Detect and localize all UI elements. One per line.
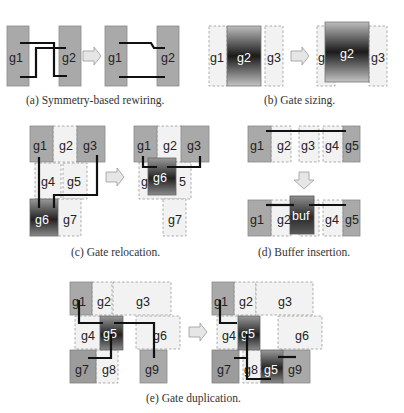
- gate-label: g1: [250, 139, 264, 153]
- gate-label: g7: [217, 363, 231, 377]
- panel-e: g1 g2 g3 g4 g5 g6 g7 g8 g9 g1 g2 g3 g4 g…: [70, 282, 322, 405]
- gate-label: g4: [325, 139, 339, 153]
- gate-label: g9: [145, 363, 159, 377]
- gate-label: g1: [108, 51, 122, 65]
- gate-label: g2: [97, 295, 111, 309]
- gate-label: g1: [250, 213, 264, 227]
- gate-label: g3: [371, 51, 385, 65]
- panel-c: g1 g2 g3 g4 g5 g6 g7 g1 g2 g3 g g6 5 g7 …: [30, 126, 209, 259]
- gate-label: g3: [267, 51, 281, 65]
- gate-label: g3: [136, 295, 150, 309]
- gate-label: g7: [168, 213, 182, 227]
- gate-label: g3: [83, 139, 97, 153]
- gate-label: g6: [295, 329, 309, 343]
- gate-label: g7: [63, 213, 77, 227]
- gate-label: g6: [35, 213, 49, 227]
- arrow-right-icon: [106, 168, 124, 186]
- gate-label: g2: [340, 47, 354, 61]
- gate-label: g6: [153, 171, 167, 185]
- caption: (a) Symmetry-based rewiring.: [26, 94, 164, 107]
- gate-label: g1: [33, 139, 47, 153]
- caption: (c) Gate relocation.: [71, 246, 160, 259]
- gate-label: g2: [277, 139, 291, 153]
- gate-label: g2: [62, 51, 76, 65]
- gate-label: g7: [75, 363, 89, 377]
- panel-d: g1 g2 g3 g4 g5 g1 g2 buf g4 g5 (d) Buffe…: [248, 126, 360, 259]
- panel-a: g1 g2 g1 g2 (a) Symmetry-based rewiring.: [7, 26, 179, 107]
- arrow-right-icon: [83, 47, 101, 65]
- gate-label: g5: [67, 175, 81, 189]
- gate-label: g1: [210, 51, 224, 65]
- gate-label: g3: [301, 139, 315, 153]
- gate-label: g2: [239, 295, 253, 309]
- gate-label: g2: [237, 51, 251, 65]
- gate-label: g4: [222, 329, 236, 343]
- arrow-right-icon: [189, 323, 207, 341]
- gate-label: g5: [345, 139, 359, 153]
- arrow-right-icon: [291, 47, 309, 65]
- gate-label: g1: [9, 51, 23, 65]
- caption: (b) Gate sizing.: [264, 94, 335, 107]
- gate-label: g3: [187, 139, 201, 153]
- gate-label: g: [318, 51, 325, 65]
- gate-label: g2: [161, 51, 175, 65]
- panel-b: g1 g2 g3 g g2 g3 (b) Gate sizing.: [209, 22, 387, 107]
- gate-label: g2: [163, 139, 177, 153]
- arrow-down-icon: [294, 172, 314, 189]
- figure-canvas: g1 g2 g1 g2 (a) Symmetry-based rewiring.…: [0, 0, 404, 413]
- gate-label: g4: [81, 329, 95, 343]
- gate-label: buf: [292, 209, 310, 223]
- gate-label: g5: [264, 363, 278, 377]
- gate-label: g3: [278, 295, 292, 309]
- caption: (d) Buffer insertion.: [258, 246, 350, 259]
- gate-label: g5: [345, 213, 359, 227]
- gate-label: g4: [325, 213, 339, 227]
- gate-label: g2: [59, 139, 73, 153]
- gate-label: g8: [102, 363, 116, 377]
- gate-label: g4: [41, 175, 55, 189]
- gate-label: g1: [137, 139, 151, 153]
- gate-label: g: [141, 175, 148, 189]
- gate-label: g9: [288, 363, 302, 377]
- gate-label: 5: [179, 175, 186, 189]
- caption: (e) Gate duplication.: [146, 392, 241, 405]
- gate-label: g2: [277, 213, 291, 227]
